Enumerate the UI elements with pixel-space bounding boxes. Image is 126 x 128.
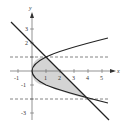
y-tick-label: 2 — [25, 40, 28, 46]
x-tick-label: 3 — [72, 75, 75, 81]
y-axis-label: y — [28, 5, 32, 11]
x-tick-label: -1 — [14, 75, 19, 81]
x-tick-label: 2 — [58, 75, 61, 81]
y-axis-arrow-icon — [30, 12, 34, 18]
x-axis-arrow-icon — [110, 69, 116, 73]
x-tick-label: 4 — [86, 75, 89, 81]
y-tick-label: -3 — [21, 110, 26, 116]
region-diagram: -1 1 2 3 4 5 3 2 -1 -3 x y — [0, 0, 126, 128]
x-tick-label: 5 — [100, 75, 103, 81]
y-tick-label: -1 — [21, 82, 26, 88]
x-axis-label: x — [116, 68, 120, 74]
x-tick-label: 1 — [44, 75, 47, 81]
y-tick-label: 3 — [25, 26, 28, 32]
